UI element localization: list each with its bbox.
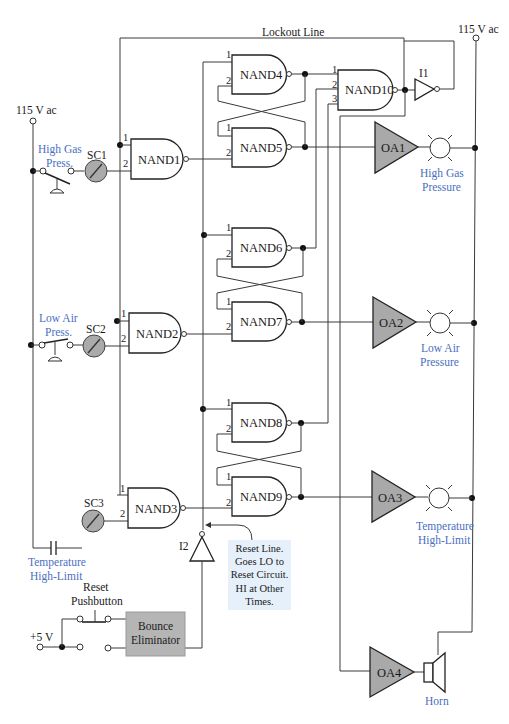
svg-text:2: 2	[226, 321, 231, 332]
inverter-i1: I1	[404, 41, 454, 100]
svg-text:OA1: OA1	[381, 141, 405, 155]
svg-text:NAND4: NAND4	[240, 68, 283, 82]
left-supply-label: 115 V ac	[16, 104, 57, 116]
svg-text:1: 1	[120, 483, 125, 494]
svg-text:2: 2	[120, 508, 125, 519]
svg-text:3: 3	[332, 93, 337, 104]
svg-text:NAND5: NAND5	[240, 141, 282, 155]
lockout-line-label: Lockout Line	[262, 26, 324, 38]
svg-text:1: 1	[226, 222, 231, 233]
latch-3: NAND8 1 2 NAND9 1 2	[217, 397, 372, 516]
indicator-3-line1: Temperature	[416, 520, 474, 533]
svg-text:OA4: OA4	[377, 666, 402, 680]
indicator-2-line1: Low Air	[421, 342, 460, 354]
svg-text:NAND3: NAND3	[135, 502, 177, 516]
oa1-amplifier: OA1	[375, 122, 431, 173]
reset-line-note: Reset Line. Goes LO to Reset Circuit. HI…	[228, 540, 291, 610]
svg-text:2: 2	[123, 158, 128, 169]
indicator-1-line1: High Gas	[420, 167, 464, 180]
svg-text:1: 1	[226, 296, 231, 307]
sc1-label: SC1	[87, 149, 107, 161]
svg-text:2: 2	[332, 79, 337, 90]
left-supply-terminal	[30, 118, 36, 124]
svg-text:NAND10: NAND10	[345, 83, 394, 97]
circuit-diagram: 115 V ac High Gas Press. SC1 Low Air Pre…	[0, 0, 509, 724]
horn-icon: Horn	[424, 653, 449, 707]
sensor-high-gas: High Gas Press. SC1	[33, 143, 131, 193]
svg-text:NAND7: NAND7	[240, 315, 282, 329]
svg-text:1: 1	[226, 49, 231, 60]
svg-text:Pushbutton: Pushbutton	[71, 595, 123, 607]
lamp-high-gas: High Gas Pressure	[420, 135, 475, 193]
svg-text:2: 2	[226, 497, 231, 508]
sc3-label: SC3	[84, 497, 104, 509]
svg-text:NAND9: NAND9	[240, 490, 282, 504]
svg-text:Reset: Reset	[83, 581, 109, 593]
svg-text:Bounce: Bounce	[138, 620, 173, 632]
sensor-temperature: Temperature High-Limit SC3	[28, 497, 128, 583]
sensor-3-label-line2: High-Limit	[30, 570, 83, 583]
svg-text:OA2: OA2	[379, 316, 403, 330]
svg-text:2: 2	[121, 333, 126, 344]
nand3-gate: NAND3 1 2	[120, 483, 232, 528]
svg-text:1: 1	[226, 122, 231, 133]
svg-text:OA3: OA3	[378, 491, 402, 505]
oa4-amplifier: OA4	[370, 647, 424, 697]
reset-arrow	[205, 522, 252, 540]
svg-text:1: 1	[121, 308, 126, 319]
horn-label: Horn	[425, 695, 449, 707]
lamp-low-air: Low Air Pressure	[420, 310, 474, 368]
svg-text:2: 2	[226, 248, 231, 259]
svg-text:2: 2	[226, 423, 231, 434]
nand2-gate: NAND2 1 2	[121, 308, 232, 353]
sensor-2-label-line1: Low Air	[39, 312, 78, 324]
svg-text:I2: I2	[179, 540, 189, 552]
svg-text:NAND1: NAND1	[138, 153, 180, 167]
right-supply-rail: 115 V ac	[438, 23, 499, 655]
svg-text:Eliminator: Eliminator	[131, 634, 180, 646]
sensor-1-label-line2: Press.	[46, 157, 73, 169]
latch-2: NAND6 1 2 NAND7 1 2	[217, 222, 375, 341]
svg-text:1: 1	[226, 471, 231, 482]
svg-text:I1: I1	[419, 67, 429, 79]
svg-text:NAND6: NAND6	[240, 241, 282, 255]
right-supply-label: 115 V ac	[458, 23, 499, 35]
sensor-low-air: Low Air Press. SC2	[31, 312, 129, 361]
lamp-temperature: Temperature High-Limit	[416, 485, 474, 547]
oa3-amplifier: OA3	[372, 471, 428, 522]
svg-text:2: 2	[226, 75, 231, 86]
bounce-eliminator: Bounce Eliminator	[126, 612, 185, 656]
indicator-3-line2: High-Limit	[418, 534, 471, 547]
indicator-1-line2: Pressure	[422, 181, 461, 193]
svg-text:1: 1	[332, 64, 337, 75]
sensor-1-label-line1: High Gas	[38, 143, 82, 156]
oa2-amplifier: OA2	[373, 297, 430, 348]
logic-supply-label: +5 V	[30, 631, 54, 643]
sensor-2-label-line2: Press.	[45, 326, 72, 338]
svg-text:1: 1	[123, 132, 128, 143]
indicator-2-line2: Pressure	[420, 356, 459, 368]
switch-low-air	[44, 339, 68, 343]
svg-text:NAND2: NAND2	[136, 327, 178, 341]
sensor-3-label-line1: Temperature	[28, 556, 86, 569]
sc2-label: SC2	[86, 323, 106, 335]
svg-text:2: 2	[226, 147, 231, 158]
nand1-gate: NAND1 1 2	[123, 132, 232, 179]
svg-text:NAND8: NAND8	[240, 416, 282, 430]
svg-text:1: 1	[226, 397, 231, 408]
reset-pushbutton: Reset Pushbutton +5 V	[30, 581, 126, 651]
